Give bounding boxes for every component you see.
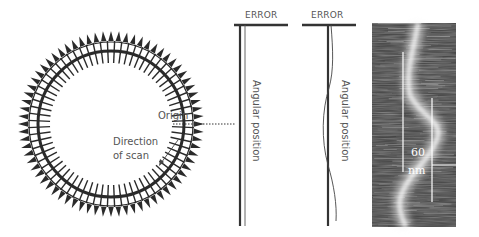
origin-label: Origin <box>158 110 188 121</box>
direction-label-line1: Direction <box>113 136 158 147</box>
direction-arrow-icon <box>159 140 178 166</box>
scale-unit: nm <box>408 165 426 177</box>
direction-label-line2: of scan <box>113 150 149 161</box>
error-title-1: ERROR <box>245 10 278 20</box>
scale-value: 60 <box>411 147 425 159</box>
angular-position-label-2: Angular position <box>340 80 351 162</box>
afm-scan-image <box>372 23 456 227</box>
error-title-2: ERROR <box>311 10 344 20</box>
figure-canvas <box>0 0 479 237</box>
angular-position-label-1: Angular position <box>251 80 262 162</box>
